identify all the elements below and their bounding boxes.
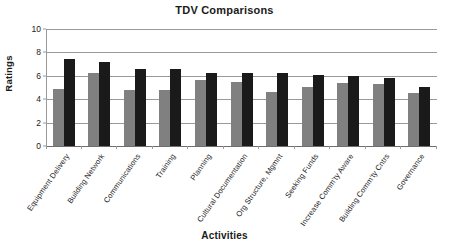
bar-chart: TDV Comparisons Ratings 0246810 Equipmen… [0, 0, 449, 251]
bar-group [259, 29, 295, 146]
bar [64, 59, 75, 146]
bar-group [366, 29, 402, 146]
y-axis-title: Ratings [3, 44, 14, 104]
x-label-cell: Governance [401, 150, 437, 226]
x-axis-title: Activities [0, 230, 449, 241]
y-tick-label-2: 2 [36, 118, 41, 128]
x-axis-label: Equipment Delivery [25, 152, 71, 213]
x-tick-mark [46, 146, 47, 149]
bar [242, 73, 253, 146]
x-axis-label: Planning [189, 152, 214, 182]
bar [53, 89, 64, 146]
y-tick-label-8: 8 [36, 47, 41, 57]
bar [99, 62, 110, 146]
x-axis-category-labels: Equipment DeliveryBuilding NetworkCommun… [46, 150, 437, 226]
bar [384, 78, 395, 146]
x-axis-label: Training [154, 152, 177, 180]
bar [373, 84, 384, 146]
bar-group [188, 29, 224, 146]
bar [159, 90, 170, 146]
bar [195, 80, 206, 146]
chart-title: TDV Comparisons [0, 4, 449, 16]
bar [206, 73, 217, 146]
bar-group [295, 29, 331, 146]
bar [419, 87, 430, 146]
bar [277, 73, 288, 146]
y-tick-label-6: 6 [36, 71, 41, 81]
bar [170, 69, 181, 146]
bar-group [82, 29, 118, 146]
bar-group [117, 29, 153, 146]
x-tick-mark [436, 146, 437, 149]
bar-group [330, 29, 366, 146]
bar [124, 90, 135, 146]
bar [337, 83, 348, 146]
bar-group [153, 29, 189, 146]
bar [135, 69, 146, 146]
x-label-cell: Communications [117, 150, 153, 226]
x-label-cell: Training [153, 150, 189, 226]
bar-group [46, 29, 82, 146]
bar [408, 93, 419, 146]
plot-area: 0246810 [46, 29, 437, 146]
bar-group [401, 29, 437, 146]
bar [302, 87, 313, 146]
bar [266, 92, 277, 146]
y-tick-label-0: 0 [36, 141, 41, 151]
bar [313, 75, 324, 146]
y-tick-label-10: 10 [32, 24, 41, 34]
bar [88, 73, 99, 146]
bars-layer [46, 29, 437, 146]
y-tick-label-4: 4 [36, 94, 41, 104]
bar [231, 82, 242, 146]
bar [348, 76, 359, 146]
bar-group [224, 29, 260, 146]
